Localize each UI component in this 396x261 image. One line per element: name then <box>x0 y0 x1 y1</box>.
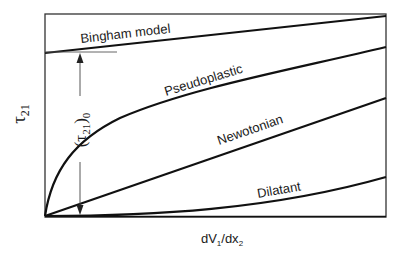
arrow-up-icon <box>77 53 84 63</box>
yield-stress-label: (τ21)0 <box>71 112 92 147</box>
rheology-diagram: (τ21)0 τ21 dV1/dx2 Bingham model Pseudop… <box>0 0 396 261</box>
dilatant-curve <box>45 177 386 216</box>
y-axis-label: τ21 <box>8 104 32 124</box>
x-axis-label: dV1/dx2 <box>201 231 244 248</box>
newtonian-label: Newotonian <box>215 111 285 148</box>
newtonian-curve <box>45 98 386 216</box>
pseudoplastic-label: Pseudoplastic <box>162 61 244 99</box>
arrow-down-icon <box>77 205 84 215</box>
bingham-label: Bingham model <box>80 21 172 46</box>
